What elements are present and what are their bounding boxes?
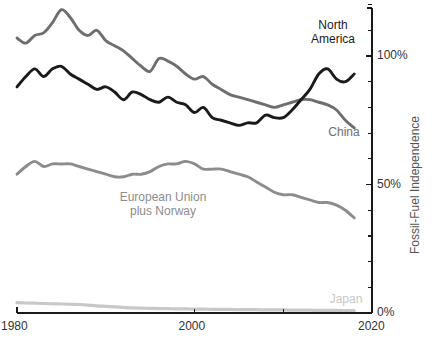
axis-layer [17,0,372,313]
x-tick-label-2020: 2020 [358,319,385,333]
series-layer [17,10,354,311]
x-tick-label-2000: 2000 [179,319,206,333]
series-label-japan: Japan [330,292,363,306]
series-line-china [17,10,354,128]
x-tick-label-1980: 1980 [1,319,28,333]
series-line-japan [17,303,354,311]
y-axis-title: Fossil-Fuel Independence [408,116,422,254]
y-tick-label-0: 0% [377,305,394,319]
y-tick-label-50: 50% [377,177,401,191]
series-label-north-america: North America [311,18,355,46]
series-label-china: China [328,125,359,139]
y-tick-label-100: 100% [377,48,408,62]
series-label-european-union: European Union plus Norway [120,190,207,218]
chart-figure: 100% 50% 0% 1980 2000 2020 Fossil-Fuel I… [0,0,445,340]
